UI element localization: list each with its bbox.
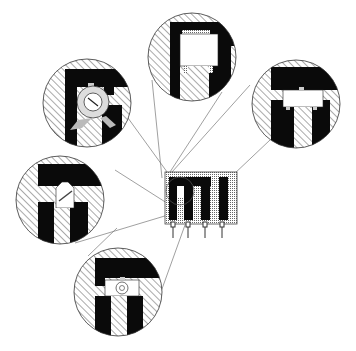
component-cross-section [165, 172, 237, 238]
detail-circle-bottom [72, 246, 167, 341]
diagram-svg [0, 0, 356, 351]
detail-circle-left [14, 154, 109, 249]
detail-circle-top [140, 10, 250, 110]
detail-circle-upper-left [40, 55, 140, 155]
detail-circle-right [250, 58, 345, 153]
diagram-canvas [0, 0, 356, 351]
